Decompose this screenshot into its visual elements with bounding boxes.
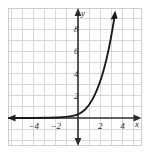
y-tick-label-4: 4 — [74, 69, 79, 78]
x-tick-label-4: 4 — [120, 122, 125, 131]
x-axis-label: x — [135, 120, 139, 129]
y-tick-label-8: 8 — [74, 25, 79, 34]
y-tick-label-6: 6 — [74, 47, 79, 56]
x-tick-label-2: 2 — [98, 122, 103, 131]
y-tick-label-2: 2 — [74, 91, 79, 100]
x-tick-label--4: −4 — [28, 122, 39, 131]
exponential-growth-graph: −4 −2 2 4 2 4 6 8 y x — [0, 0, 149, 153]
x-tick-label--2: −2 — [51, 122, 62, 131]
y-axis-label: y — [81, 9, 85, 18]
